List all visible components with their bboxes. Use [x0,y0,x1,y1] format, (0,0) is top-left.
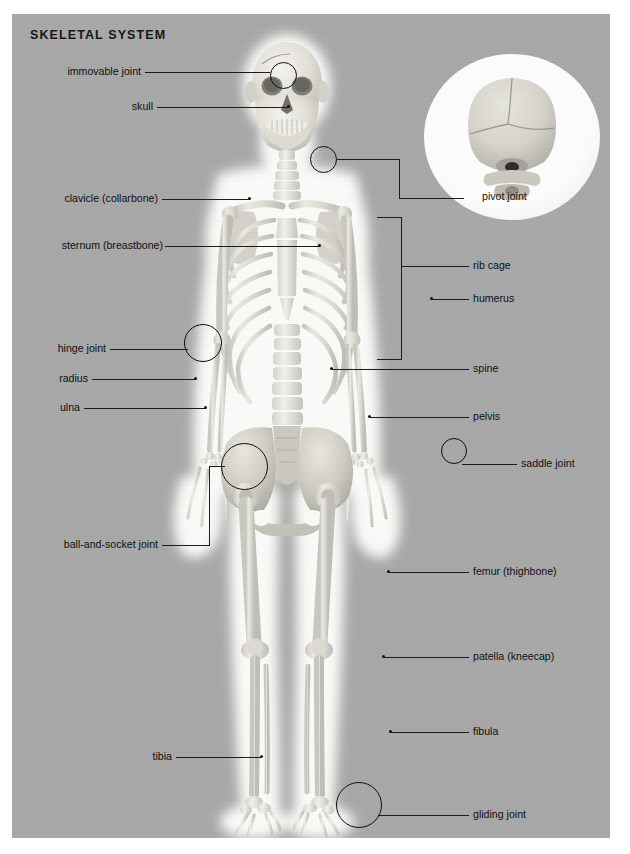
leader-ribcage-bracket-top [377,217,402,218]
leader-patella [384,657,469,658]
leader-ulna [84,408,206,409]
leader-ball-and-socket-v [209,466,210,546]
leader-pivot-v [399,159,400,199]
label-gliding-joint: gliding joint [473,809,526,820]
leader-femur [389,572,469,573]
poster-panel: SKELETAL SYSTEM [12,14,610,838]
pivot-joint-inset: pivot joint [424,54,600,220]
skeleton-figure [122,24,452,836]
leg-bones [236,504,338,836]
leader-skull [157,107,289,108]
label-ulna: ulna [12,402,80,413]
ring-hinge-joint [184,324,222,362]
ring-pivot-joint [310,146,337,173]
leader-rib-cage [401,266,469,267]
label-patella: patella (kneecap) [473,651,554,662]
leader-tibia [176,757,262,758]
ring-saddle-joint [441,438,467,464]
skeletal-system-poster: SKELETAL SYSTEM [0,0,630,854]
ring-ball-and-socket-joint [221,443,268,490]
leader-clavicle [162,199,250,200]
label-radius: radius [12,373,88,384]
label-clavicle: clavicle (collarbone) [12,193,158,204]
leader-gliding-joint [378,815,469,816]
spine-bone [272,324,303,425]
label-spine: spine [473,363,498,374]
inset-caption-pivot-joint: pivot joint [482,191,527,202]
leader-humerus [432,299,469,300]
label-humerus: humerus [473,293,514,304]
leader-pelvis [370,417,469,418]
leader-pivot-h2 [399,198,464,199]
label-femur: femur (thighbone) [473,566,557,577]
leader-ball-and-socket-h2 [209,466,225,467]
leader-hinge-joint [110,349,188,350]
ring-gliding-joint [336,782,382,828]
label-ball-and-socket-joint: ball-and-socket joint [12,539,158,550]
leader-ribcage-bracket-v [401,217,402,360]
leader-fibula [391,732,469,733]
label-fibula: fibula [473,726,498,737]
leader-saddle-joint [462,464,517,465]
leader-ribcage-bracket-bot [377,359,402,360]
leader-immovable-joint [145,72,270,73]
leader-ball-and-socket-h1 [162,545,210,546]
ring-immovable-joint [270,62,297,89]
leader-pivot-h1 [337,159,400,160]
label-sternum: sternum (breastbone) [12,240,163,251]
body-silhouette [122,24,452,836]
leader-sternum [165,246,320,247]
label-hinge-joint: hinge joint [12,343,106,354]
label-pelvis: pelvis [473,411,500,422]
label-rib-cage: rib cage [473,260,511,271]
label-tibia: tibia [12,751,172,762]
leader-spine [332,369,469,370]
label-immovable-joint: immovable joint [12,66,141,77]
leader-radius [92,379,196,380]
label-saddle-joint: saddle joint [521,458,575,469]
label-skull: skull [12,101,153,112]
